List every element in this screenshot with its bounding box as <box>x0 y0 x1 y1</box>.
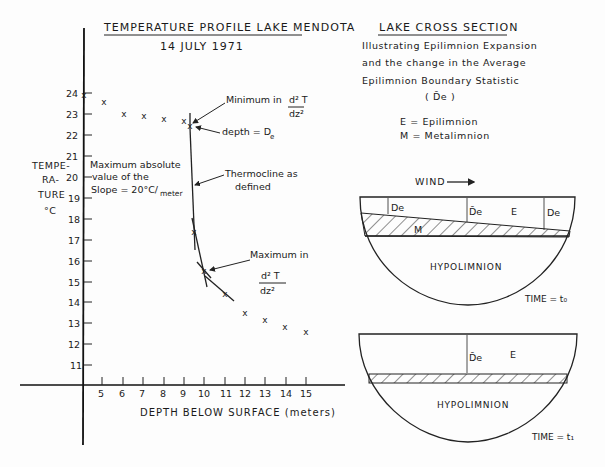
svg-text:D̄e: D̄e <box>469 352 482 363</box>
svg-text:defined: defined <box>235 181 271 192</box>
svg-text:( D̄e ): ( D̄e ) <box>425 91 455 102</box>
svg-text:and the change in the Average: and the change in the Average <box>362 57 526 68</box>
svg-text:15: 15 <box>300 388 312 399</box>
svg-text:24: 24 <box>66 88 78 99</box>
svg-text:12: 12 <box>68 339 80 350</box>
svg-text:19: 19 <box>68 193 80 204</box>
slope-label: Maximum absolute <box>90 159 181 170</box>
legend-m: M = Metalimnion <box>400 130 490 141</box>
svg-text:14: 14 <box>280 388 292 399</box>
svg-text:17: 17 <box>68 235 80 246</box>
svg-text:x: x <box>161 114 167 124</box>
data-points: x x x x x x x x x x x x x x <box>81 90 309 337</box>
figure: TEMPERATURE PROFILE LAKE MENDOTA 14 JULY… <box>0 0 605 467</box>
svg-text:dz²: dz² <box>260 285 275 296</box>
svg-text:18: 18 <box>68 214 80 225</box>
svg-text:De: De <box>547 207 560 218</box>
svg-text:14: 14 <box>68 297 80 308</box>
chart-date: 14 JULY 1971 <box>160 40 244 53</box>
max-label: Maximum in <box>250 249 309 260</box>
svg-text:RA-: RA- <box>42 174 59 185</box>
svg-text:TIME = t₀: TIME = t₀ <box>524 294 567 304</box>
lake-top: De D̄e E De M HYPOLIMNION TIME = t₀ <box>360 197 575 305</box>
svg-text:x: x <box>141 111 147 121</box>
svg-text:16: 16 <box>68 256 80 267</box>
svg-text:value of the: value of the <box>92 171 149 182</box>
temperature-chart: TEMPERATURE PROFILE LAKE MENDOTA 14 JULY… <box>20 21 355 445</box>
svg-text:11: 11 <box>70 360 82 371</box>
svg-text:dz²: dz² <box>289 108 304 119</box>
svg-text:x: x <box>121 109 127 119</box>
svg-text:x: x <box>242 308 248 318</box>
svg-text:De: De <box>391 202 404 213</box>
svg-text:x: x <box>282 322 288 332</box>
svg-text:TIME = t₁: TIME = t₁ <box>531 432 574 442</box>
thermocline-lines <box>190 113 234 301</box>
svg-text:E: E <box>511 206 517 217</box>
legend-e: E = Epilimnion <box>400 116 478 127</box>
svg-text:7: 7 <box>139 388 145 399</box>
description: Illustrating Epilimnion Expansion and th… <box>362 40 537 141</box>
svg-text:e: e <box>270 133 274 141</box>
svg-text:6: 6 <box>119 388 125 399</box>
svg-text:x: x <box>262 315 268 325</box>
svg-text:M: M <box>414 224 422 235</box>
svg-text:13: 13 <box>259 388 271 399</box>
lake-bottom: D̄e E HYPOLIMNION TIME = t₁ <box>359 334 577 442</box>
svg-text:10: 10 <box>198 388 210 399</box>
wind-label: WIND <box>415 176 446 187</box>
svg-text:12: 12 <box>239 388 251 399</box>
svg-text:D̄e: D̄e <box>469 206 482 217</box>
thermocline-label: Thermocline as <box>224 168 298 179</box>
svg-text:Slope = 20°C/: Slope = 20°C/ <box>91 184 159 195</box>
x-ticks: 5 6 7 8 9 10 11 12 13 14 15 <box>98 377 312 399</box>
svg-text:15: 15 <box>68 277 80 288</box>
svg-text:13: 13 <box>68 318 80 329</box>
svg-text:°C: °C <box>44 205 56 216</box>
svg-text:x: x <box>81 90 87 100</box>
depth-label: depth = D <box>222 126 271 137</box>
svg-text:meter: meter <box>160 189 183 198</box>
svg-text:HYPOLIMNION: HYPOLIMNION <box>430 262 502 272</box>
min-label: Minimum in <box>226 94 282 105</box>
svg-text:d² T: d² T <box>289 94 308 105</box>
svg-text:9: 9 <box>180 388 186 399</box>
svg-text:8: 8 <box>160 388 166 399</box>
svg-text:5: 5 <box>98 388 104 399</box>
lake-cross-section: LAKE CROSS SECTION Illustrating Epilimni… <box>359 21 577 442</box>
cross-section-title: LAKE CROSS SECTION <box>379 21 518 34</box>
svg-text:23: 23 <box>66 109 78 120</box>
svg-text:HYPOLIMNION: HYPOLIMNION <box>437 400 509 410</box>
chart-title: TEMPERATURE PROFILE LAKE MENDOTA <box>103 21 355 34</box>
svg-text:20: 20 <box>66 172 78 183</box>
svg-text:Illustrating Epilimnion Expans: Illustrating Epilimnion Expansion <box>362 40 537 51</box>
svg-text:22: 22 <box>66 130 78 141</box>
x-axis-label: DEPTH BELOW SURFACE (meters) <box>140 407 336 418</box>
svg-text:x: x <box>101 97 107 107</box>
svg-text:Epilimnion Boundary Statistic: Epilimnion Boundary Statistic <box>362 75 519 86</box>
svg-text:11: 11 <box>220 388 232 399</box>
svg-text:TURE: TURE <box>37 189 65 200</box>
svg-text:x: x <box>303 327 309 337</box>
y-axis-label: TEMPE- RA- TURE °C <box>31 160 70 216</box>
y-ticks: 24 23 22 21 20 19 18 17 16 15 14 13 12 1… <box>66 88 92 371</box>
svg-text:d² T: d² T <box>261 270 280 281</box>
annotations: Minimum in d² T dz² depth = D e Maximum … <box>90 94 309 296</box>
svg-text:E: E <box>510 349 516 360</box>
svg-text:TEMPE-: TEMPE- <box>31 160 70 171</box>
